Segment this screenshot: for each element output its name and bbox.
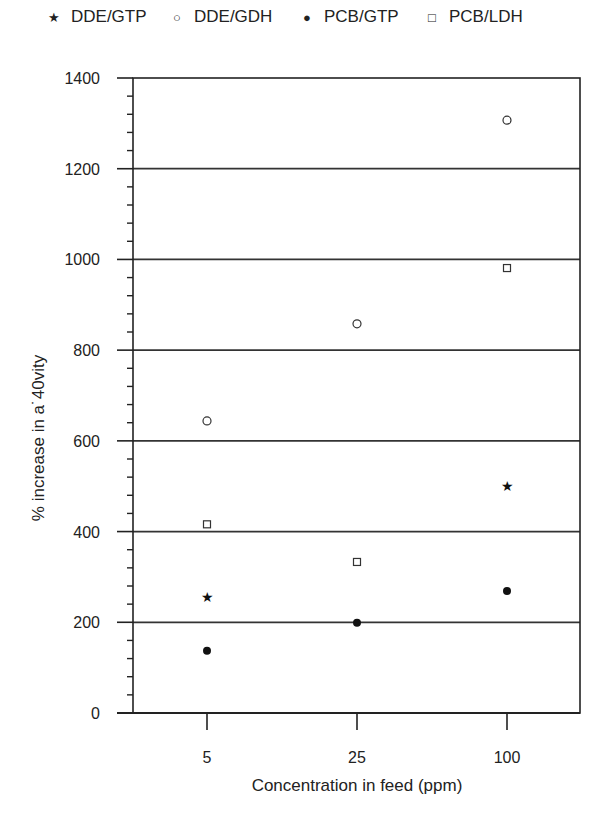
y-axis-title: % increase in a˙40vity [29,354,48,521]
open-square-marker-icon [354,558,361,565]
y-tick-label: 1000 [64,251,100,268]
plot-frame [133,78,580,713]
filled-circle-marker-icon [503,587,511,595]
y-tick-label: 400 [73,524,100,541]
x-tick-label: 25 [348,749,366,766]
scatter-chart: 0200400600800100012001400 525100 ★★ Conc… [0,0,614,816]
open-circle-marker-icon [203,417,211,425]
open-square-marker-icon [204,521,211,528]
gridlines [133,169,580,623]
filled-circle-marker-icon [353,619,361,627]
star-marker-icon: ★ [201,589,214,605]
x-tick-label: 100 [494,749,521,766]
star-marker-icon: ★ [501,478,514,494]
open-square-marker-icon [504,265,511,272]
y-tick-label: 1200 [64,161,100,178]
x-axis-ticks: 525100 [203,713,521,766]
y-axis-ticks: 0200400600800100012001400 [64,70,133,722]
open-circle-marker-icon [503,116,511,124]
y-tick-label: 0 [91,705,100,722]
filled-circle-marker-icon [203,647,211,655]
y-tick-label: 600 [73,433,100,450]
y-tick-label: 200 [73,614,100,631]
data-points: ★★ [201,116,514,655]
x-axis-title: Concentration in feed (ppm) [252,776,463,795]
y-tick-label: 800 [73,342,100,359]
y-tick-label: 1400 [64,70,100,87]
x-tick-label: 5 [203,749,212,766]
open-circle-marker-icon [353,320,361,328]
